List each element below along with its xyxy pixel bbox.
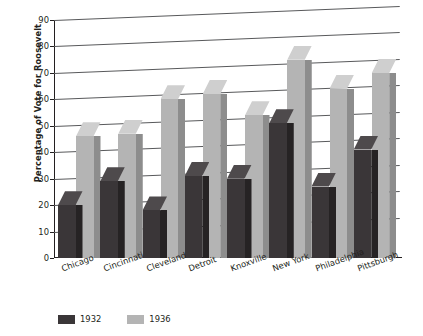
y-tick-label-60: 60 bbox=[38, 94, 49, 104]
plot-area: 0102030405060708090 bbox=[54, 20, 402, 258]
y-tick-label-20: 20 bbox=[38, 200, 49, 210]
legend-swatch-1932 bbox=[58, 315, 75, 324]
bar-face bbox=[143, 210, 161, 258]
legend-item-1932: 1932 bbox=[58, 314, 101, 324]
bar-philadelphia-1932 bbox=[312, 187, 330, 258]
gridline-90 bbox=[54, 6, 400, 21]
bar-cincinnati-1932 bbox=[100, 181, 118, 258]
bar-knoxville-1932 bbox=[227, 179, 245, 258]
legend-swatch-1936 bbox=[127, 315, 144, 324]
bar-top bbox=[76, 122, 101, 136]
y-tick-label-30: 30 bbox=[38, 174, 49, 184]
legend-label-1932: 1932 bbox=[80, 314, 101, 324]
y-tick-label-50: 50 bbox=[38, 121, 49, 131]
bar-pittsburgh-1932 bbox=[354, 150, 372, 258]
bar-face bbox=[100, 181, 118, 258]
bar-side bbox=[371, 150, 378, 258]
bar-new-york-1932 bbox=[269, 123, 287, 258]
bar-top bbox=[287, 46, 312, 60]
bar-side bbox=[287, 123, 294, 258]
bar-top bbox=[330, 75, 355, 89]
bar-side bbox=[389, 73, 396, 258]
bar-side bbox=[245, 179, 252, 258]
legend: 1932 1936 bbox=[58, 314, 171, 324]
bar-top bbox=[245, 101, 270, 115]
bar-top bbox=[118, 120, 143, 134]
bar-top bbox=[161, 85, 186, 99]
bar-face bbox=[227, 179, 245, 258]
bars-layer bbox=[54, 20, 402, 258]
bar-side bbox=[329, 187, 336, 258]
y-tick-label-70: 70 bbox=[38, 68, 49, 78]
bar-face bbox=[269, 123, 287, 258]
bar-face bbox=[354, 150, 372, 258]
bar-side bbox=[202, 176, 209, 258]
bar-side bbox=[76, 205, 83, 258]
legend-item-1936: 1936 bbox=[127, 314, 170, 324]
bar-face bbox=[58, 205, 76, 258]
bar-face bbox=[185, 176, 203, 258]
bar-chicago-1932 bbox=[58, 205, 76, 258]
bar-face bbox=[312, 187, 330, 258]
bar-top bbox=[372, 59, 397, 73]
bar-cleveland-1932 bbox=[143, 210, 161, 258]
y-tick-label-90: 90 bbox=[38, 15, 49, 25]
y-tick-label-40: 40 bbox=[38, 147, 49, 157]
y-tick-label-10: 10 bbox=[38, 227, 49, 237]
bar-top bbox=[203, 80, 228, 94]
legend-label-1936: 1936 bbox=[149, 314, 170, 324]
bar-chart: Percentage of Vote for Roosevelt 0102030… bbox=[0, 0, 423, 336]
bar-side bbox=[160, 210, 167, 258]
bar-side bbox=[118, 181, 125, 258]
y-tick-label-0: 0 bbox=[44, 253, 49, 263]
bar-detroit-1932 bbox=[185, 176, 203, 258]
y-tick-label-80: 80 bbox=[38, 41, 49, 51]
y-tick-mark-0 bbox=[50, 258, 54, 259]
